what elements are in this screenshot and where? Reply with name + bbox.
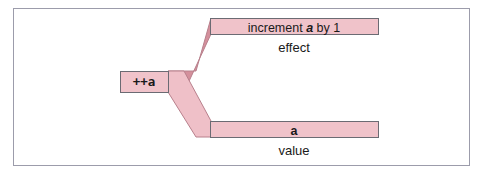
effect-bar-label: increment a by 1	[210, 22, 378, 35]
effect-caption: effect	[210, 41, 378, 54]
effect-bar-label-prefix: increment	[248, 21, 306, 35]
value-bar-label-variable: a	[291, 124, 298, 138]
figure-root: ++a increment a by 1 effect a value	[0, 0, 485, 179]
value-bar-label: a	[210, 125, 378, 138]
expression-label: ++a	[120, 76, 168, 89]
effect-bar-label-suffix: by 1	[313, 21, 340, 35]
fork-arm-value	[168, 71, 211, 137]
value-caption: value	[210, 144, 378, 157]
